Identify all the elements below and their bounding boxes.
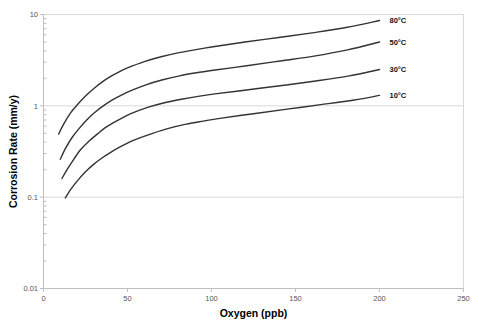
chart-canvas: 0.010.111005010015020025080°C50°C30°C10°…: [0, 0, 479, 324]
series-label-80C: 80°C: [390, 16, 407, 25]
x-axis-title: Oxygen (ppb): [220, 307, 288, 319]
series-label-30C: 30°C: [390, 65, 407, 74]
y-tick-label: 0.01: [23, 284, 38, 293]
y-tick-label: 10: [30, 10, 38, 19]
series-label-50C: 50°C: [390, 38, 407, 47]
label-group: 80°C50°C30°C10°COxygen (ppb)Corrosion Ra…: [7, 16, 407, 318]
data-group: [59, 20, 380, 197]
x-tick-label: 250: [457, 294, 470, 303]
x-tick-label: 150: [289, 294, 302, 303]
x-tick-label: 100: [205, 294, 218, 303]
series-line-10C: [65, 95, 379, 198]
series-line-50C: [60, 42, 379, 159]
series-label-10C: 10°C: [390, 91, 407, 100]
x-tick-label: 50: [123, 294, 131, 303]
axis-group: 0.010.1110050100150200250: [23, 10, 469, 302]
y-tick-label: 0.1: [28, 193, 38, 202]
y-axis-title: Corrosion Rate (mm/y): [7, 95, 19, 208]
series-line-80C: [59, 20, 380, 134]
corrosion-rate-chart: 0.010.111005010015020025080°C50°C30°C10°…: [0, 0, 479, 324]
y-tick-label: 1: [34, 102, 38, 111]
x-tick-label: 200: [373, 294, 386, 303]
series-line-30C: [62, 69, 380, 178]
x-tick-label: 0: [41, 294, 45, 303]
